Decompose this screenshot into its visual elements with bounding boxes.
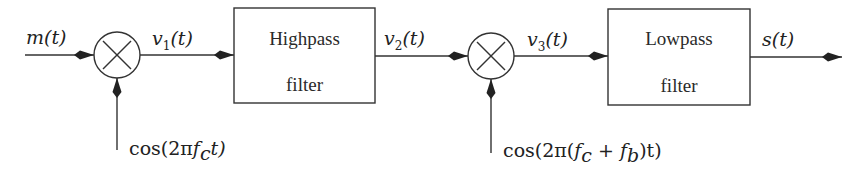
osc1-suffix: t) xyxy=(211,137,226,159)
highpass-label-line2: filter xyxy=(234,74,375,96)
v1-arg: (t) xyxy=(170,27,192,49)
label-v1: v1(t) xyxy=(152,27,193,53)
label-output-signal: s(t) xyxy=(762,28,794,50)
lowpass-label-line1: Lowpass xyxy=(608,28,750,50)
label-v3: v3(t) xyxy=(527,28,568,54)
v2-arg: (t) xyxy=(402,27,424,49)
osc2-f2: f xyxy=(620,139,627,161)
osc1-prefix: cos(2π xyxy=(129,137,193,159)
osc2-sub2: b xyxy=(627,144,639,166)
v3-symbol: v xyxy=(527,28,538,50)
label-v2: v2(t) xyxy=(384,27,425,53)
v3-arg: (t) xyxy=(545,28,567,50)
osc1-sub: c xyxy=(200,142,211,164)
mixer-1 xyxy=(94,32,140,78)
highpass-label-line1: Highpass xyxy=(234,28,375,50)
osc2-plus: + xyxy=(592,139,620,161)
osc1-f: f xyxy=(193,137,200,159)
lowpass-label-line2: filter xyxy=(608,75,750,97)
label-input-signal: m(t) xyxy=(26,26,66,48)
osc2-prefix: cos(2π( xyxy=(503,139,574,161)
label-oscillator-1: cos(2πfct) xyxy=(129,137,226,164)
osc2-sub1: c xyxy=(581,144,592,166)
v1-symbol: v xyxy=(152,27,163,49)
label-oscillator-2: cos(2π(fc + fb)t) xyxy=(503,139,662,166)
osc2-suffix: )t) xyxy=(639,139,661,161)
mixer-2 xyxy=(468,33,514,79)
v2-symbol: v xyxy=(384,27,395,49)
